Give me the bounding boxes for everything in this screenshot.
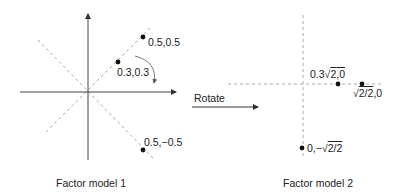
label-radical: 2/2 <box>359 87 374 99</box>
caption-factor-model-2: Factor model 2 <box>283 178 353 189</box>
point-0.3-0.3 <box>116 60 121 65</box>
label-0.3sqrt2-0: 0.3√2,0 <box>310 69 345 80</box>
point-sqrt2half-0 <box>360 82 365 87</box>
label-sqrt2half-0: √2/2,0 <box>353 88 382 99</box>
label-0.5-neg0.5: 0.5,−0.5 <box>144 137 182 148</box>
label-prefix: 0,− <box>307 142 322 154</box>
label-0-neg-sqrt2half: 0,−√2/2 <box>307 143 342 154</box>
point-0.3sqrt2-0 <box>336 82 341 87</box>
point-0.5-0.5 <box>141 35 146 40</box>
label-suffix: ,0 <box>373 87 382 99</box>
label-0.5-0.5: 0.5,0.5 <box>148 37 180 48</box>
label-radical: 2/2 <box>328 142 343 154</box>
caption-factor-model-1: Factor model 1 <box>56 178 126 189</box>
dashed-diagonal-negative <box>38 40 153 158</box>
rotate-label: Rotate <box>194 93 225 104</box>
label-suffix: ,0 <box>336 68 345 80</box>
label-0.3-0.3: 0.3,0.3 <box>117 67 149 78</box>
label-prefix: 0.3 <box>310 68 325 80</box>
dashed-diagonal-positive <box>46 26 152 132</box>
point-0.5-neg0.5 <box>141 148 146 153</box>
point-0-neg-sqrt2half <box>300 146 305 151</box>
